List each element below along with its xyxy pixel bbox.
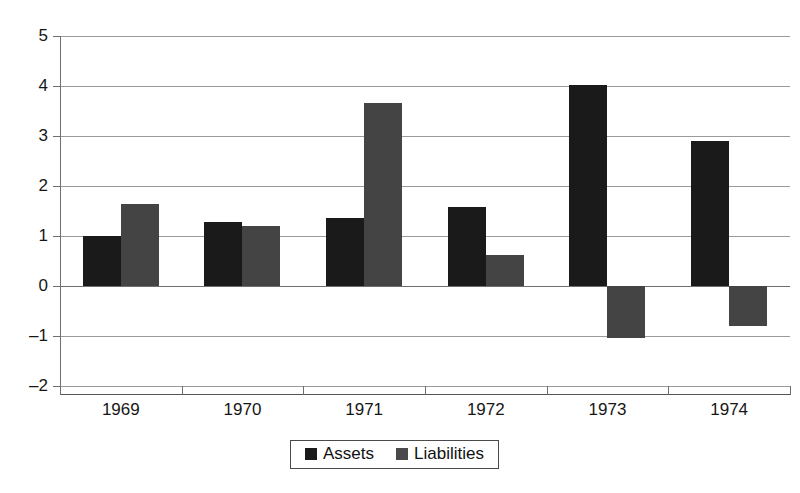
- y-tick-label: –1: [0, 327, 48, 344]
- bar-group-1973: [547, 36, 669, 386]
- bar-liabilities-1974: [729, 286, 767, 326]
- bar-group-1972: [425, 36, 547, 386]
- y-tick-label: 0: [0, 277, 48, 294]
- legend-item-liabilities: Liabilities: [396, 445, 484, 463]
- bar-liabilities-1973: [607, 286, 645, 338]
- bar-chart: 543210–1–2 196919701971197219731974 Asse…: [0, 0, 800, 493]
- y-tick-mark-2: [53, 186, 60, 187]
- y-tick-mark--2: [53, 386, 60, 387]
- bar-group-1970: [182, 36, 304, 386]
- x-tick-mark: [668, 386, 669, 395]
- x-tick-label-1971: 1971: [303, 400, 425, 420]
- x-tick-label-1974: 1974: [668, 400, 790, 420]
- x-tick-label-1972: 1972: [425, 400, 547, 420]
- legend-label-assets: Assets: [323, 445, 374, 463]
- x-tick-mark: [60, 386, 61, 395]
- x-tick-label-1969: 1969: [60, 400, 182, 420]
- x-tick-mark: [182, 386, 183, 395]
- y-tick-label: 1: [0, 227, 48, 244]
- liabilities-swatch-icon: [396, 448, 408, 460]
- bar-assets-1974: [691, 141, 729, 286]
- x-tick-mark: [303, 386, 304, 395]
- x-tick-label-1970: 1970: [182, 400, 304, 420]
- chart-legend: Assets Liabilities: [290, 440, 499, 469]
- y-tick-mark-1: [53, 236, 60, 237]
- y-tick-label: –2: [0, 377, 48, 394]
- bar-assets-1970: [204, 222, 242, 286]
- bar-liabilities-1972: [486, 255, 524, 287]
- x-tick-mark: [425, 386, 426, 395]
- y-tick-mark--1: [53, 336, 60, 337]
- bar-liabilities-1971: [364, 103, 402, 287]
- legend-label-liabilities: Liabilities: [414, 445, 484, 463]
- bar-group-1974: [668, 36, 790, 386]
- bar-assets-1972: [448, 207, 486, 286]
- y-tick-label: 3: [0, 127, 48, 144]
- bar-assets-1971: [326, 218, 364, 287]
- y-tick-label: 2: [0, 177, 48, 194]
- bar-liabilities-1970: [242, 226, 280, 287]
- x-tick-mark: [790, 386, 791, 395]
- bar-assets-1969: [83, 236, 121, 286]
- y-tick-mark-5: [53, 36, 60, 37]
- y-tick-mark-0: [53, 286, 60, 287]
- assets-swatch-icon: [305, 448, 317, 460]
- legend-item-assets: Assets: [305, 445, 374, 463]
- bar-liabilities-1969: [121, 204, 159, 287]
- x-tick-label-1973: 1973: [547, 400, 669, 420]
- bar-group-1969: [60, 36, 182, 386]
- y-tick-mark-4: [53, 86, 60, 87]
- plot-area: [60, 36, 790, 386]
- x-tick-mark: [547, 386, 548, 395]
- y-tick-label: 4: [0, 77, 48, 94]
- y-tick-label: 5: [0, 27, 48, 44]
- bar-group-1971: [303, 36, 425, 386]
- y-tick-mark-3: [53, 136, 60, 137]
- bar-assets-1973: [569, 85, 607, 286]
